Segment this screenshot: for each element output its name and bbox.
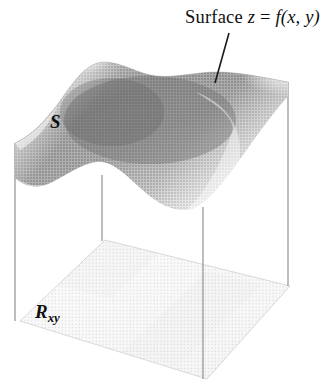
surface-letter-label: S [50, 112, 61, 131]
surface-shading [0, 50, 336, 230]
region-subscript: xy [48, 310, 60, 325]
surface-right-highlight [196, 62, 308, 122]
figure-canvas [0, 0, 336, 392]
region-label: Rxy [35, 302, 60, 324]
surface-over-region-figure: Surface z = f(x, y) S Rxy [0, 0, 336, 392]
surface-ridge-highlight [56, 50, 144, 94]
surface-word: Surface [185, 7, 248, 27]
region-letter: R [35, 301, 48, 322]
surface-s [0, 50, 336, 230]
floor-region-rxy [20, 204, 290, 379]
floor-wash [20, 240, 290, 379]
equals-sign: = [255, 7, 275, 27]
floor-bands [20, 204, 290, 379]
surface-equation-label: Surface z = f(x, y) [185, 8, 320, 27]
function-args: (x, y) [281, 7, 320, 27]
variable-z: z [248, 7, 255, 27]
